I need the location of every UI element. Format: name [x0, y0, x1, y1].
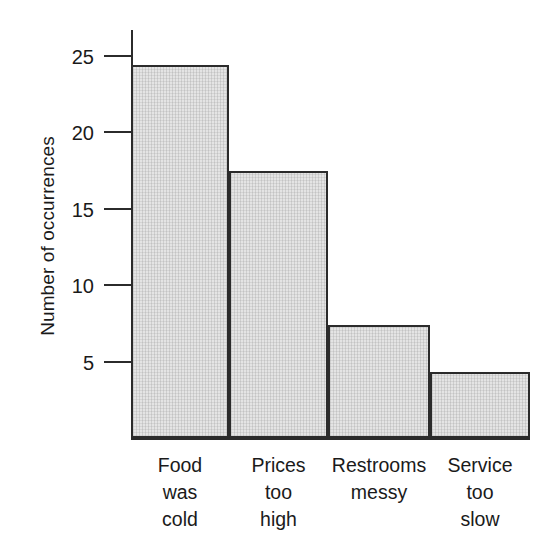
bar: [430, 372, 530, 438]
x-category-label: Food was cold: [125, 452, 235, 533]
bar: [328, 325, 430, 438]
bar: [229, 171, 328, 438]
bar: [131, 65, 229, 438]
x-category-label: Restrooms messy: [322, 452, 436, 506]
x-category-label: Service too slow: [424, 452, 536, 533]
bar-chart: Number of occurrences 510152025 Food was…: [0, 0, 557, 554]
x-category-label: Prices too high: [223, 452, 334, 533]
